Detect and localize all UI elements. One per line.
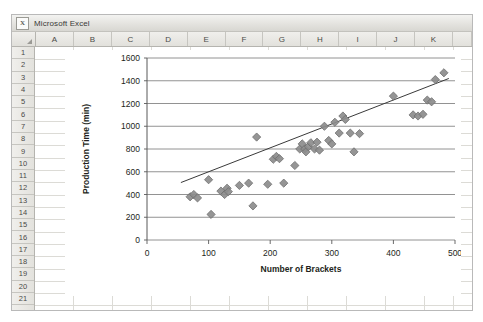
column-header-g[interactable]: G <box>263 32 301 46</box>
column-header-h[interactable]: H <box>301 32 339 46</box>
row-header-8[interactable]: 8 <box>12 133 34 145</box>
excel-window: X Microsoft Excel A B C D E F G H I J K … <box>11 14 473 311</box>
column-header-k[interactable]: K <box>415 32 453 46</box>
column-header-d[interactable]: D <box>150 32 188 46</box>
row-header-19[interactable]: 19 <box>12 268 34 280</box>
data-point-marker <box>346 129 354 137</box>
x-tick-label: 500 <box>448 248 461 258</box>
row-header-13[interactable]: 13 <box>12 195 34 207</box>
scatter-chart-object[interactable]: 0200400600800100012001400160001002003004… <box>65 50 461 296</box>
y-tick-label: 200 <box>126 212 140 222</box>
column-header-row: A B C D E F G H I J K <box>12 32 472 47</box>
row-header-14[interactable]: 14 <box>12 207 34 219</box>
row-header-10[interactable]: 10 <box>12 158 34 170</box>
y-tick-label: 1000 <box>121 121 140 131</box>
row-header-17[interactable]: 17 <box>12 244 34 256</box>
row-header-12[interactable]: 12 <box>12 182 34 194</box>
data-point-marker <box>235 181 243 189</box>
row-header-column: 1 2 3 4 5 6 7 8 9 10 11 12 13 14 15 16 1… <box>12 47 35 311</box>
chart-svg: 0200400600800100012001400160001002003004… <box>65 50 461 296</box>
x-tick-label: 0 <box>145 248 150 258</box>
row-header-5[interactable]: 5 <box>12 96 34 108</box>
row-header-21[interactable]: 21 <box>12 293 34 305</box>
window-title: Microsoft Excel <box>34 19 90 28</box>
data-point-marker <box>440 69 448 77</box>
row-header-3[interactable]: 3 <box>12 72 34 84</box>
worksheet-grid: 1 2 3 4 5 6 7 8 9 10 11 12 13 14 15 16 1… <box>12 47 472 311</box>
select-all-triangle-icon <box>27 39 32 44</box>
row-header-11[interactable]: 11 <box>12 170 34 182</box>
trendline <box>181 78 449 182</box>
column-header-i[interactable]: I <box>339 32 377 46</box>
row-header-20[interactable]: 20 <box>12 281 34 293</box>
x-tick-label: 300 <box>325 248 339 258</box>
column-header-partial[interactable] <box>453 32 472 46</box>
column-header-a[interactable]: A <box>36 32 74 46</box>
x-tick-label: 200 <box>263 248 277 258</box>
data-point-marker <box>264 180 272 188</box>
data-point-marker <box>253 133 261 141</box>
data-point-marker <box>335 129 343 137</box>
column-header-f[interactable]: F <box>226 32 264 46</box>
column-header-j[interactable]: J <box>377 32 415 46</box>
grid-hline <box>35 305 472 306</box>
x-axis-title: Number of Brackets <box>261 264 342 274</box>
y-tick-label: 600 <box>126 167 140 177</box>
row-header-2[interactable]: 2 <box>12 59 34 71</box>
row-header-1[interactable]: 1 <box>12 47 34 59</box>
column-header-e[interactable]: E <box>188 32 226 46</box>
select-all-corner[interactable] <box>12 32 36 46</box>
y-tick-label: 800 <box>126 144 140 154</box>
data-point-marker <box>205 176 213 184</box>
data-point-marker <box>249 202 257 210</box>
screenshot-root: X Microsoft Excel A B C D E F G H I J K … <box>0 0 483 322</box>
row-header-16[interactable]: 16 <box>12 231 34 243</box>
x-tick-label: 400 <box>386 248 400 258</box>
row-header-18[interactable]: 18 <box>12 256 34 268</box>
row-header-4[interactable]: 4 <box>12 84 34 96</box>
y-tick-label: 1600 <box>121 53 140 63</box>
data-point-marker <box>320 122 328 130</box>
column-header-b[interactable]: B <box>74 32 112 46</box>
data-point-marker <box>291 161 299 169</box>
y-tick-label: 1400 <box>121 76 140 86</box>
y-tick-label: 0 <box>135 235 140 245</box>
y-tick-label: 400 <box>126 190 140 200</box>
row-header-9[interactable]: 9 <box>12 145 34 157</box>
window-title-bar: X Microsoft Excel <box>12 15 472 32</box>
data-point-marker <box>355 130 363 138</box>
data-point-marker <box>280 179 288 187</box>
row-header-7[interactable]: 7 <box>12 121 34 133</box>
data-point-marker <box>331 118 339 126</box>
y-axis-title: Production Time (min) <box>81 104 91 194</box>
x-tick-label: 100 <box>202 248 216 258</box>
excel-icon: X <box>16 17 29 30</box>
data-point-marker <box>245 179 253 187</box>
y-tick-label: 1200 <box>121 99 140 109</box>
column-header-c[interactable]: C <box>112 32 150 46</box>
row-header-15[interactable]: 15 <box>12 219 34 231</box>
cells-area[interactable]: 0200400600800100012001400160001002003004… <box>35 47 472 311</box>
row-header-6[interactable]: 6 <box>12 108 34 120</box>
